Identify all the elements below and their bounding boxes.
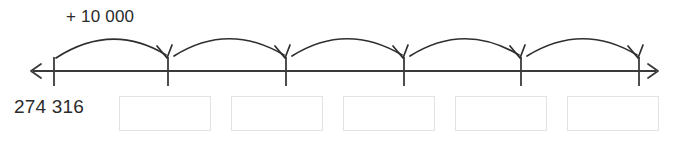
jump-arc-1 [56,39,166,58]
start-value-label: 274 316 [14,96,84,117]
answer-box-row [119,96,674,133]
answer-box-2[interactable] [231,96,323,131]
jump-arc-5 [527,39,637,56]
answer-box-1[interactable] [119,96,211,131]
jump-arc-4 [410,39,519,56]
jump-arc-2 [174,39,284,56]
jump-step-label: + 10 000 [66,7,134,26]
number-line-worksheet: + 10 000 274 316 [0,0,694,148]
answer-box-5[interactable] [567,96,659,131]
answer-box-4[interactable] [455,96,547,131]
answer-box-3[interactable] [343,96,435,131]
jump-arc-3 [292,39,402,56]
